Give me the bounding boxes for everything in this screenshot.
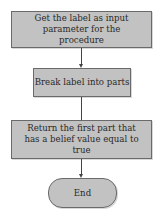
end-terminal: End — [48, 178, 117, 208]
step-return-part-text: Return the first part that has a belief … — [20, 123, 143, 156]
step-get-label-text: Get the label as input parameter for the… — [22, 13, 141, 46]
end-terminal-text: End — [74, 188, 91, 199]
connector-1 — [81, 48, 82, 64]
step-get-label: Get the label as input parameter for the… — [11, 11, 152, 48]
connector-3 — [81, 159, 82, 174]
step-break-label: Break label into parts — [33, 68, 131, 97]
step-return-part: Return the first part that has a belief … — [11, 120, 152, 159]
connector-2 — [81, 97, 82, 120]
step-break-label-text: Break label into parts — [35, 77, 130, 88]
